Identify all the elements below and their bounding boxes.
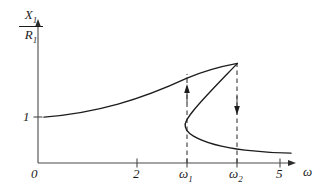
resonance-curve-figure: X1 R1 1 0 2 5 ω1 ω2 ω	[0, 0, 320, 190]
omega1-label: ω1	[179, 167, 193, 184]
y-tick-label-1: 1	[23, 110, 30, 123]
unstable-middle-branch-path	[185, 63, 237, 124]
plot-canvas	[0, 0, 320, 190]
x-tick-label-5: 5	[276, 167, 283, 180]
x-axis-arrow-icon	[288, 160, 296, 166]
jump-arrows-group	[184, 84, 240, 115]
lower-fold-branch-path	[185, 124, 291, 153]
x-tick-label-2: 2	[133, 167, 140, 180]
y-axis-label: X1 R1	[14, 8, 48, 44]
x-axis-label: ω	[303, 165, 312, 178]
jump-up-arrow-icon	[184, 84, 190, 93]
tick-marks-group	[34, 117, 281, 168]
y-axis-label-denominator: R1	[14, 28, 48, 45]
response-curve-group	[44, 63, 291, 153]
lower-stable-branch-path	[44, 78, 187, 117]
x-tick-label-0: 0	[31, 167, 38, 180]
jump-down-arrow-icon	[234, 106, 240, 115]
axes-group	[35, 19, 296, 166]
y-axis-label-numerator: X1	[14, 8, 48, 25]
omega2-label: ω2	[229, 167, 243, 184]
